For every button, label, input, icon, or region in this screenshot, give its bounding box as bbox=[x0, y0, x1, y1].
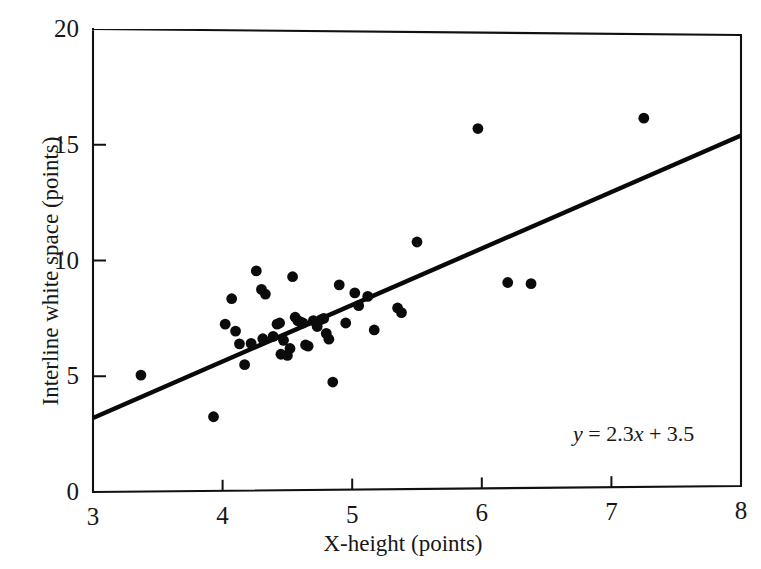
y-tick-label: 10 bbox=[27, 248, 79, 273]
regression-line bbox=[93, 135, 741, 417]
data-point bbox=[274, 318, 285, 329]
data-point bbox=[287, 271, 298, 282]
y-tick-label: 20 bbox=[27, 16, 79, 41]
data-point bbox=[234, 338, 245, 349]
equation-y-symbol: y bbox=[573, 421, 583, 446]
x-tick-label: 5 bbox=[332, 502, 372, 527]
regression-equation-annotation: y = 2.3x + 3.5 bbox=[573, 421, 694, 447]
data-point bbox=[340, 318, 351, 329]
equation-x-symbol: x bbox=[634, 421, 644, 446]
data-point bbox=[318, 313, 329, 324]
data-point bbox=[362, 291, 373, 302]
data-point bbox=[285, 343, 296, 354]
x-tick-label: 7 bbox=[591, 499, 631, 524]
data-point bbox=[323, 334, 334, 345]
equation-intercept: + 3.5 bbox=[643, 421, 694, 446]
data-point bbox=[136, 370, 147, 381]
x-tick-label: 4 bbox=[203, 503, 243, 528]
data-point bbox=[353, 300, 364, 311]
data-point bbox=[526, 278, 537, 289]
y-tick-label: 5 bbox=[27, 363, 79, 388]
data-point bbox=[396, 307, 407, 318]
data-point bbox=[502, 277, 513, 288]
x-axis-label: X-height (points) bbox=[233, 531, 573, 557]
x-tick-label: 3 bbox=[73, 504, 113, 529]
data-point bbox=[226, 293, 237, 304]
equation-operator: = 2.3 bbox=[583, 421, 634, 446]
data-point bbox=[220, 319, 231, 330]
data-point bbox=[298, 318, 309, 329]
y-tick-label: 15 bbox=[27, 132, 79, 157]
data-point bbox=[268, 331, 279, 342]
y-tick-label: 0 bbox=[27, 479, 79, 504]
data-point bbox=[303, 341, 314, 352]
x-tick-label: 6 bbox=[462, 500, 502, 525]
x-tick-label: 8 bbox=[721, 498, 761, 523]
data-point bbox=[349, 288, 360, 299]
data-point bbox=[334, 279, 345, 290]
data-point bbox=[638, 113, 649, 124]
plot-canvas bbox=[0, 0, 761, 569]
data-point bbox=[412, 237, 423, 248]
data-point bbox=[230, 326, 241, 337]
y-axis-ticks bbox=[93, 145, 106, 377]
data-point bbox=[369, 325, 380, 336]
data-point bbox=[257, 333, 268, 344]
data-point bbox=[327, 377, 338, 388]
data-points bbox=[136, 113, 650, 422]
data-point bbox=[251, 266, 262, 277]
data-point bbox=[473, 123, 484, 134]
data-point bbox=[260, 289, 271, 300]
data-point bbox=[239, 359, 250, 370]
scatter-plot-figure: Interline white space (points) X-height … bbox=[0, 0, 761, 569]
trend-line bbox=[93, 135, 741, 417]
data-point bbox=[208, 411, 219, 422]
data-point bbox=[246, 338, 257, 349]
